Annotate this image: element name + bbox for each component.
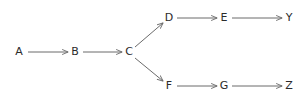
node-label-z: Z xyxy=(282,80,296,91)
node-label-f: F xyxy=(162,80,176,91)
edge-c-to-f xyxy=(135,58,163,81)
node-label-d: D xyxy=(162,12,176,23)
node-label-g: G xyxy=(217,80,231,91)
diagram-canvas: ABCDEYFGZ xyxy=(0,0,301,99)
node-label-y: Y xyxy=(282,12,296,23)
edge-c-to-d xyxy=(135,23,163,47)
graph-edges-layer xyxy=(0,0,301,99)
node-label-b: B xyxy=(68,46,82,57)
node-label-a: A xyxy=(12,46,26,57)
node-label-e: E xyxy=(217,12,231,23)
node-label-c: C xyxy=(122,46,136,57)
